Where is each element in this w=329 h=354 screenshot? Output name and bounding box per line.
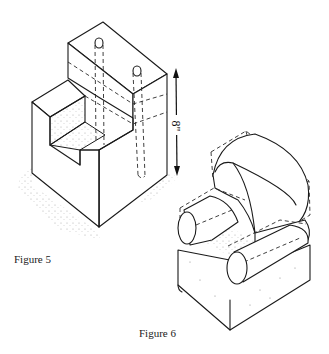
diagram-canvas: 8" [0,0,329,354]
figure-6-caption: Figure 6 [139,327,176,339]
dowel-hole-2 [133,66,141,76]
right-arm-end [227,252,247,284]
figure-5-block: 8" [18,22,184,240]
left-arm-end [178,212,196,244]
dowel-hole-1 [95,38,103,48]
figure-6-armchair [178,131,310,330]
dimension-arrow: 8" [168,68,184,176]
dimension-label: 8" [169,121,183,132]
figure-5-caption: Figure 5 [14,253,51,265]
